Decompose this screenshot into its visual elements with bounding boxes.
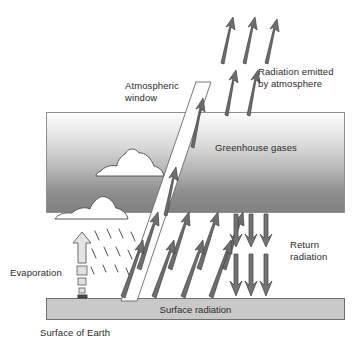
evaporation-arrow bbox=[73, 232, 91, 263]
greenhouse-effect-diagram: Surface radiation bbox=[0, 0, 359, 348]
radiation-emitted-label: Radiation emitted by atmosphere bbox=[258, 66, 358, 90]
evaporation-label: Evaporation bbox=[10, 267, 80, 279]
diagram-artwork bbox=[0, 0, 359, 348]
cloud-upper bbox=[96, 149, 164, 176]
atmosphere-emitted-arrows-top bbox=[221, 17, 279, 64]
atmospheric-window-label: Atmospheric window bbox=[125, 80, 210, 104]
rain-dashes bbox=[91, 229, 135, 275]
return-radiation-arrows-lower bbox=[230, 254, 272, 296]
surface-of-earth-caption: Surface of Earth bbox=[40, 327, 180, 339]
cloud-lower bbox=[55, 197, 128, 219]
atmosphere-emitted-arrows-lower bbox=[225, 70, 260, 116]
return-radiation-arrows-upper bbox=[230, 214, 272, 247]
greenhouse-gases-label: Greenhouse gases bbox=[215, 142, 335, 154]
return-radiation-label: Return radiation bbox=[290, 239, 359, 263]
